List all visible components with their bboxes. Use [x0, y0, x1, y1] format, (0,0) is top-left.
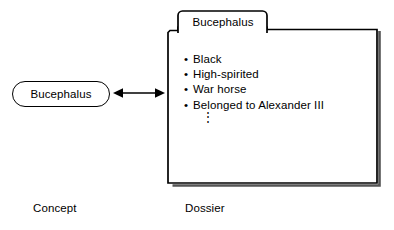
dossier-attribute-list: •Black •High-spirited •War horse •Belong…	[184, 52, 370, 113]
bullet-icon: •	[184, 98, 188, 113]
list-item: •War horse	[184, 82, 370, 97]
list-item-label: Black	[193, 53, 222, 65]
vertical-ellipsis-icon: ⋮	[202, 111, 214, 123]
bullet-icon: •	[184, 67, 188, 82]
concept-caption: Concept	[33, 202, 77, 214]
dossier-folder: Bucephalus •Black •High-spirited •War ho…	[166, 8, 382, 188]
bullet-icon: •	[184, 82, 188, 97]
dossier-caption: Dossier	[185, 202, 225, 214]
concept-node-label: Bucephalus	[13, 82, 109, 106]
list-item: •High-spirited	[184, 67, 370, 82]
list-item: •Black	[184, 52, 370, 67]
concept-node: Bucephalus	[12, 81, 110, 107]
bidirectional-arrow-icon	[110, 83, 168, 103]
dossier-tab-label: Bucephalus	[180, 11, 266, 32]
bullet-icon: •	[184, 52, 188, 67]
list-item-label: High-spirited	[193, 68, 259, 80]
double-headed-arrow-svg	[110, 83, 168, 103]
list-item-label: War horse	[193, 83, 247, 95]
list-item-label: Belonged to Alexander III	[193, 99, 324, 111]
concept-dossier-diagram: Bucephalus Bucephalus •Black •High-spiri…	[0, 0, 394, 230]
